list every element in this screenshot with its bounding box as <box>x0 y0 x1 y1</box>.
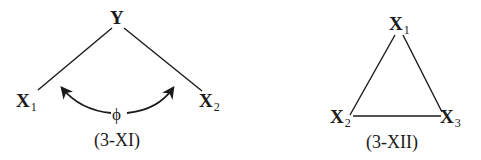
angle-phi-label: ϕ <box>112 106 121 123</box>
node-label: X <box>199 90 213 111</box>
node-label: X <box>330 106 344 127</box>
node-x2: X2 <box>330 107 351 129</box>
node-subscript: 1 <box>404 23 410 37</box>
edge-x1-x3 <box>403 35 442 112</box>
caption-3-xi: (3-XI) <box>94 131 140 149</box>
node-subscript: 2 <box>214 100 220 114</box>
node-label: Y <box>110 7 124 28</box>
node-x3: X3 <box>440 107 461 129</box>
node-subscript: 2 <box>345 116 351 130</box>
node-y: Y <box>110 8 124 27</box>
caption-3-xii: (3-XII) <box>366 133 418 151</box>
node-x1: X1 <box>16 91 37 113</box>
node-subscript: 1 <box>31 100 37 114</box>
node-x1: X1 <box>389 14 410 36</box>
node-x2: X2 <box>199 91 220 113</box>
edge-y-x2 <box>124 28 202 91</box>
edge-y-x1 <box>38 28 112 90</box>
node-label: X <box>16 90 30 111</box>
node-label: X <box>389 13 403 34</box>
edge-x1-x2 <box>350 35 395 115</box>
angle-arrow-right <box>127 88 173 113</box>
node-subscript: 3 <box>455 116 461 130</box>
angle-arrow-left <box>62 88 111 113</box>
node-label: X <box>440 106 454 127</box>
